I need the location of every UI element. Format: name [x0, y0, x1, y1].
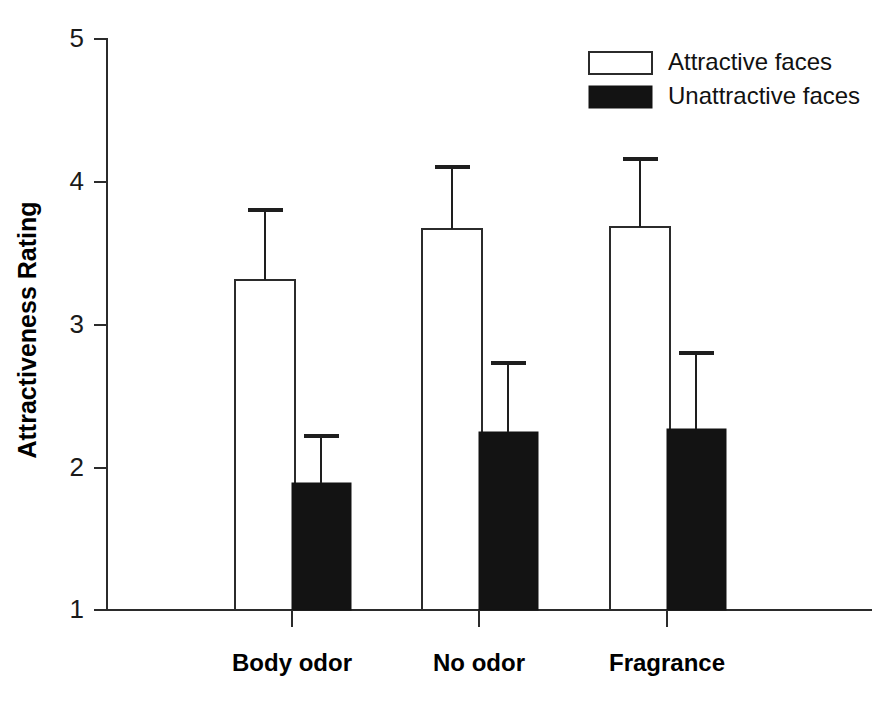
bar-attractive-fragrance [610, 227, 670, 610]
legend-label-unattractive: Unattractive faces [668, 82, 860, 109]
y-tick-label-3: 3 [70, 309, 84, 339]
bar-attractive-body-odor [235, 280, 295, 610]
y-tick-label-5: 5 [70, 23, 84, 53]
legend-label-attractive: Attractive faces [668, 48, 832, 75]
y-tick-label-2: 2 [70, 452, 84, 482]
legend: Attractive faces Unattractive faces [589, 48, 860, 109]
y-tick-label-4: 4 [70, 166, 84, 196]
bar-attractive-no-odor [422, 229, 482, 610]
x-axis-label-no-odor: No odor [433, 649, 525, 676]
y-tick-label-1: 1 [70, 594, 84, 624]
y-axis-title: Attractiveness Rating [13, 201, 41, 458]
legend-swatch-unattractive [589, 86, 652, 108]
x-axis-label-fragrance: Fragrance [609, 649, 725, 676]
bar-unattractive-fragrance [667, 429, 726, 610]
x-axis-label-body-odor: Body odor [232, 649, 352, 676]
chart-container: 5 4 3 2 1 Attractiveness Rating Body odo… [0, 0, 889, 705]
bar-unattractive-body-odor [292, 483, 351, 610]
legend-swatch-attractive [589, 52, 652, 74]
bar-unattractive-no-odor [479, 432, 538, 610]
bar-chart: 5 4 3 2 1 Attractiveness Rating Body odo… [0, 0, 889, 705]
